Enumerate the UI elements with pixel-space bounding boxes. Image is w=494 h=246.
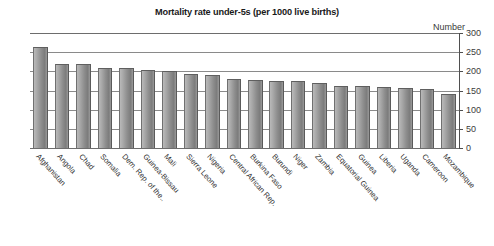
category-label: Mali — [163, 152, 179, 168]
bar[interactable] — [248, 80, 263, 148]
bar-slot — [137, 33, 158, 148]
chart-figure: Mortality rate under-5s (per 1000 live b… — [0, 0, 494, 246]
bar-slot — [159, 33, 180, 148]
category-slot: Guinea — [352, 150, 373, 246]
category-slot: Somalia — [94, 150, 115, 246]
bar-slot — [395, 33, 416, 148]
y-tick-mark — [459, 91, 463, 92]
bar-slot — [51, 33, 72, 148]
category-slot: Equatorial Guinea — [330, 150, 351, 246]
category-slot: Central African Rep. — [223, 150, 244, 246]
bar[interactable] — [98, 68, 113, 148]
bar[interactable] — [334, 86, 349, 148]
category-slot: Chad — [73, 150, 94, 246]
bars-layer — [30, 33, 459, 148]
y-tick-mark — [459, 129, 463, 130]
y-tick-mark — [459, 110, 463, 111]
bar[interactable] — [377, 87, 392, 148]
bar-slot — [116, 33, 137, 148]
bar[interactable] — [441, 94, 456, 148]
x-axis-category-labels: AfghanistanAngolaChadSomaliaDem. Rep. of… — [30, 150, 459, 246]
category-slot: Uganda — [395, 150, 416, 246]
bar-slot — [373, 33, 394, 148]
bar-slot — [309, 33, 330, 148]
y-tick-mark — [459, 52, 463, 53]
category-label: Niger — [291, 152, 310, 171]
y-tick-mark — [459, 71, 463, 72]
category-slot: Liberia — [373, 150, 394, 246]
bar-slot — [287, 33, 308, 148]
bar[interactable] — [33, 47, 48, 148]
bar[interactable] — [227, 79, 242, 148]
bar[interactable] — [420, 89, 435, 148]
category-label: Mozambique — [442, 152, 477, 190]
bar-slot — [94, 33, 115, 148]
bar[interactable] — [76, 64, 91, 148]
category-slot: Guinea-Bissau — [137, 150, 158, 246]
category-slot: Zambia — [309, 150, 330, 246]
y-tick-label: 200 — [466, 67, 481, 76]
y-tick-label: 300 — [466, 29, 481, 38]
y-tick-label: 150 — [466, 86, 481, 95]
bar[interactable] — [55, 64, 70, 148]
y-tick-mark — [459, 33, 463, 34]
y-tick-mark — [459, 148, 463, 149]
y-tick-label: 50 — [466, 124, 476, 133]
bar-slot — [245, 33, 266, 148]
category-slot: Afghanistan — [30, 150, 51, 246]
bar-slot — [416, 33, 437, 148]
category-slot: Dem. Rep. of the.. — [116, 150, 137, 246]
bar[interactable] — [184, 74, 199, 148]
bar[interactable] — [205, 75, 220, 148]
bar-slot — [330, 33, 351, 148]
y-tick-label: 0 — [466, 144, 471, 153]
bar-slot — [352, 33, 373, 148]
category-label: Chad — [77, 152, 96, 171]
bar[interactable] — [291, 81, 306, 148]
bar[interactable] — [162, 71, 177, 148]
bar-slot — [30, 33, 51, 148]
category-slot: Nigeria — [202, 150, 223, 246]
bar-slot — [73, 33, 94, 148]
y-tick-label: 100 — [466, 105, 481, 114]
bar-slot — [202, 33, 223, 148]
y-tick-label: 250 — [466, 48, 481, 57]
bar[interactable] — [141, 70, 156, 148]
category-slot: Sierra Leone — [180, 150, 201, 246]
category-slot: Angola — [51, 150, 72, 246]
bar-slot — [180, 33, 201, 148]
y-axis-unit-label: Number — [433, 22, 465, 32]
category-slot: Niger — [287, 150, 308, 246]
gridline-0 — [30, 148, 459, 149]
bar-slot — [438, 33, 459, 148]
bar[interactable] — [119, 68, 134, 148]
bar[interactable] — [355, 86, 370, 148]
plot-area — [30, 33, 459, 148]
category-slot: Cameroon — [416, 150, 437, 246]
bar-slot — [266, 33, 287, 148]
category-slot: Burundi — [266, 150, 287, 246]
category-slot: Mali — [159, 150, 180, 246]
bar[interactable] — [269, 81, 284, 148]
bar[interactable] — [398, 88, 413, 148]
bar-slot — [223, 33, 244, 148]
y-axis: 300250200150100500 — [459, 33, 494, 148]
category-slot: Burkina Faso — [245, 150, 266, 246]
category-slot: Mozambique — [438, 150, 459, 246]
chart-title: Mortality rate under-5s (per 1000 live b… — [0, 7, 494, 17]
bar[interactable] — [312, 83, 327, 148]
